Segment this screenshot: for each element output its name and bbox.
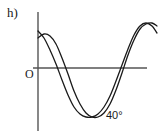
part-label: h) bbox=[7, 6, 18, 19]
figure-container: h) O 40° bbox=[0, 0, 163, 139]
curve-2 bbox=[38, 23, 157, 117]
angle-label: 40° bbox=[106, 110, 123, 121]
curve-1 bbox=[38, 23, 157, 118]
origin-label: O bbox=[25, 68, 34, 80]
